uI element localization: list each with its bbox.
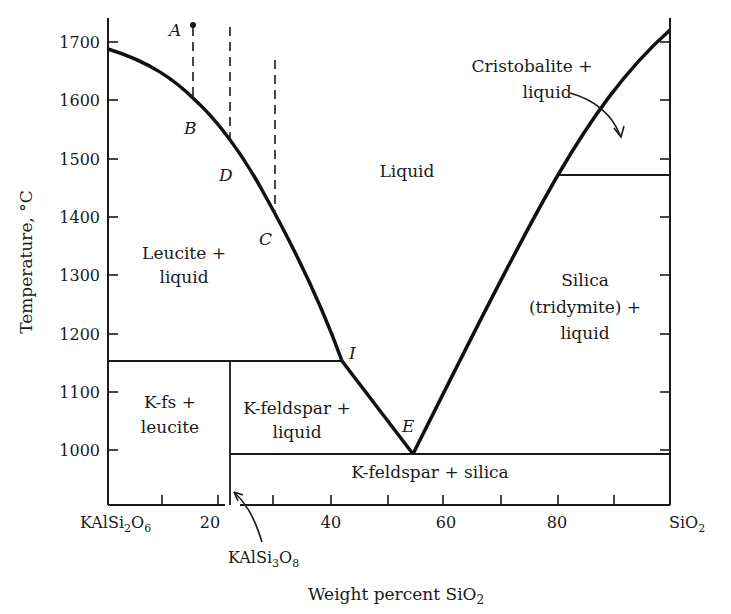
region-kfeldspar-liquid-line1: K-feldspar + bbox=[243, 398, 350, 418]
kfeldspar-liquidus bbox=[342, 361, 413, 454]
region-kfeldspar-liquid-line2: liquid bbox=[272, 422, 321, 442]
x-tick-20: 20 bbox=[200, 513, 220, 532]
region-kfs-leucite-line1: K-fs + bbox=[144, 392, 196, 412]
x-axis-title: Weight percent SiO2 bbox=[308, 584, 484, 607]
region-cristobalite-liquid-line2: liquid bbox=[522, 82, 571, 102]
y-tick-1700: 1700 bbox=[59, 33, 100, 52]
region-leucite-liquid-line1: Leucite + bbox=[142, 243, 226, 263]
y-tick-1400: 1400 bbox=[59, 208, 100, 227]
x-tick-40: 40 bbox=[321, 513, 341, 532]
x-tick-60: 60 bbox=[436, 513, 456, 532]
y-tick-1000: 1000 bbox=[59, 441, 100, 460]
y-axis-title: Temperature, °C bbox=[16, 190, 36, 334]
point-labels: A B D C I E bbox=[167, 20, 415, 436]
x-tick-kalsi2o6: KAlSi2O6 bbox=[80, 513, 151, 535]
y-tick-1600: 1600 bbox=[59, 91, 100, 110]
y-tick-labels: 1700 1600 1500 1400 1300 1200 1100 1000 bbox=[59, 33, 100, 460]
x-tick-labels: KAlSi2O6 20 40 60 80 SiO2 bbox=[80, 513, 705, 535]
point-c-label: C bbox=[259, 229, 272, 249]
region-kfs-leucite-line2: leucite bbox=[141, 417, 199, 437]
phase-diagram: 1700 1600 1500 1400 1300 1200 1100 1000 … bbox=[0, 0, 731, 614]
point-a-label: A bbox=[167, 20, 181, 40]
y-tick-1500: 1500 bbox=[59, 150, 100, 169]
y-tick-1100: 1100 bbox=[59, 383, 100, 402]
region-leucite-liquid-line2: liquid bbox=[159, 267, 208, 287]
leucite-liquidus bbox=[108, 49, 342, 361]
region-liquid: Liquid bbox=[380, 161, 435, 181]
region-silica-liquid-line2: (tridymite) + bbox=[529, 297, 641, 317]
region-kfeldspar-silica: K-feldspar + silica bbox=[351, 462, 509, 482]
y-tick-1200: 1200 bbox=[59, 325, 100, 344]
region-silica-liquid-line1: Silica bbox=[561, 270, 609, 290]
point-d-label: D bbox=[218, 165, 233, 185]
y-tick-1300: 1300 bbox=[59, 266, 100, 285]
region-silica-liquid-line3: liquid bbox=[560, 323, 609, 343]
kalsi3o8-label: KAlSi3O8 bbox=[228, 548, 299, 570]
point-b-label: B bbox=[183, 118, 197, 138]
x-tick-80: 80 bbox=[547, 513, 567, 532]
x-tick-sio2: SiO2 bbox=[669, 513, 705, 535]
region-cristobalite-liquid-line1: Cristobalite + bbox=[472, 56, 593, 76]
point-a-marker bbox=[190, 22, 196, 28]
point-e-label: E bbox=[401, 416, 415, 436]
point-i-label: I bbox=[348, 343, 356, 363]
